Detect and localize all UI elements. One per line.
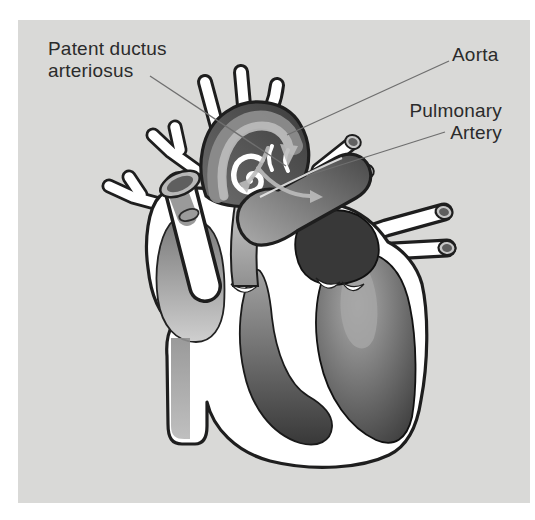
vessel-cut-opening — [438, 240, 456, 255]
patent-ductus-arteriosus-label: Patent ductus arteriosus — [48, 38, 167, 82]
label-line-2: arteriosus — [48, 60, 167, 82]
inferior-vena-cava-lumen — [171, 338, 190, 439]
label-line-1: Patent ductus — [48, 38, 167, 60]
pulmonary-artery-label: Pulmonary Artery — [409, 100, 502, 144]
label-line-2: Artery — [409, 122, 502, 144]
label-line-1: Pulmonary — [409, 100, 502, 122]
figure: Patent ductus arteriosus Aorta Pulmonary… — [0, 0, 535, 520]
aorta-label: Aorta — [452, 44, 498, 66]
